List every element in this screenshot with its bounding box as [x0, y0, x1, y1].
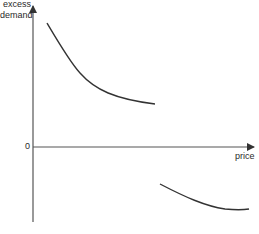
excess-demand-diagram	[0, 0, 259, 234]
origin-label: 0	[25, 142, 30, 151]
lower-curve	[160, 184, 249, 210]
y-axis-label-line1: excess	[3, 0, 31, 9]
y-axis-label-line2: demand	[0, 11, 33, 20]
upper-curve	[47, 23, 155, 104]
x-axis-label: price	[235, 152, 255, 161]
